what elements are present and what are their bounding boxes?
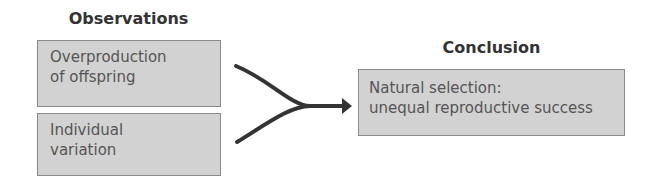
conclusion-title: Conclusion — [358, 38, 625, 57]
conclusion-box: Natural selection: unequal reproductive … — [358, 69, 625, 136]
conclusion-line: Natural selection: — [369, 78, 614, 98]
conclusion-line: unequal reproductive success — [369, 98, 614, 118]
